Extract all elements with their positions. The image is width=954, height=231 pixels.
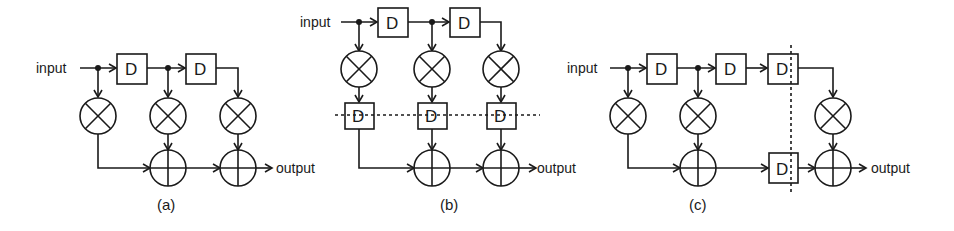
delay-box: D <box>418 103 447 129</box>
delay-box: D <box>716 54 746 84</box>
svg-text:D: D <box>655 60 667 79</box>
svg-text:D: D <box>352 107 364 126</box>
delay-box: D <box>186 54 216 84</box>
delay-box: D <box>769 153 798 183</box>
input-label: input <box>567 60 597 76</box>
multiplier-icon <box>815 98 851 134</box>
input-label: input <box>36 60 66 76</box>
multiplier-icon <box>483 51 519 87</box>
delay-box: D <box>450 8 480 37</box>
output-label: output <box>871 160 910 176</box>
multiplier-icon <box>80 98 116 134</box>
svg-text:D: D <box>494 107 506 126</box>
adder-icon <box>483 150 519 186</box>
adder-icon <box>220 150 256 186</box>
multiplier-icon <box>150 98 186 134</box>
output-label: output <box>537 160 576 176</box>
multiplier-icon <box>610 98 646 134</box>
panel-c: input D D D <box>567 45 910 213</box>
output-label: output <box>276 160 315 176</box>
svg-text:D: D <box>724 60 736 79</box>
adder-icon <box>815 150 851 186</box>
fir-diagram: input D D <box>0 0 954 231</box>
multiplier-icon <box>220 98 256 134</box>
svg-text:D: D <box>386 14 398 33</box>
svg-text:D: D <box>194 60 206 79</box>
delay-box: D <box>647 54 677 84</box>
svg-text:D: D <box>776 160 788 179</box>
caption-c: (c) <box>689 196 707 213</box>
panel-b: input D D <box>300 8 576 213</box>
delay-box: D <box>768 54 798 84</box>
input-label: input <box>300 14 330 30</box>
delay-box: D <box>378 8 408 37</box>
svg-text:D: D <box>125 60 137 79</box>
adder-icon <box>414 150 450 186</box>
multiplier-icon <box>414 51 450 87</box>
delay-box: D <box>487 103 516 129</box>
delay-box: D <box>117 54 147 84</box>
adder-icon <box>150 150 186 186</box>
multiplier-icon <box>680 98 716 134</box>
delay-box: D <box>345 103 374 129</box>
caption-b: (b) <box>440 196 458 213</box>
panel-a: input D D <box>36 54 315 213</box>
svg-text:D: D <box>776 60 788 79</box>
svg-text:D: D <box>458 14 470 33</box>
adder-icon <box>680 150 716 186</box>
multiplier-icon <box>341 51 377 87</box>
svg-text:D: D <box>425 107 437 126</box>
caption-a: (a) <box>157 196 175 213</box>
